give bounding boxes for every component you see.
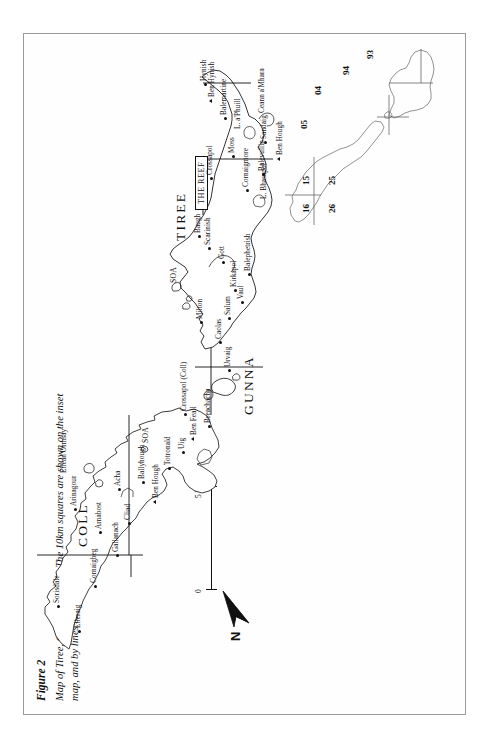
inset-grid-number: 94 <box>341 66 351 75</box>
place-label: Gott <box>219 246 226 259</box>
region-label-tiree: TIREE <box>173 192 189 241</box>
place-label: Ben Feall <box>191 406 198 435</box>
inset-grid-number: 93 <box>365 50 375 59</box>
inset-coastline-tiree <box>389 50 434 118</box>
place-label: Baugh <box>195 214 202 233</box>
place-label: Gallanach <box>113 522 120 552</box>
inset-grid-number: 25 <box>327 176 337 185</box>
place-label: Ben Hynish <box>209 62 216 97</box>
coastline-gunna-islet <box>232 374 240 380</box>
place-label: Arnabost <box>96 502 103 529</box>
place-label: Hynish <box>201 60 208 81</box>
place-label: Arinagour <box>71 476 78 506</box>
figure-stage: Figure 2 Map of Tiree, Gunna and Coll. T… <box>23 33 466 715</box>
region-label-coll: COLL <box>75 503 91 547</box>
place-label: Milton <box>197 299 204 319</box>
region-label-gunna: GUNNA <box>241 355 257 415</box>
place-label: Ceann a'Mhara <box>259 68 266 113</box>
place-label: Cliad <box>125 504 132 520</box>
place-label: Breachacha <box>205 388 212 423</box>
place-label: Totronald <box>165 436 172 465</box>
place-label: Moss <box>229 137 236 153</box>
inset-map: 1626152505049493 <box>281 45 446 235</box>
place-label: Balephetrish <box>245 233 252 271</box>
coastline-coll <box>45 408 219 649</box>
place-label: Crossapol (Coll) <box>181 362 188 411</box>
islet-tiree-north <box>182 303 190 309</box>
place-label: Cornaigmore <box>243 148 250 187</box>
coastline-gunna <box>212 378 236 395</box>
inset-grid-number: 26 <box>327 204 337 213</box>
soa-label-tiree: SOA <box>169 267 178 283</box>
soa-label-coll: SOA <box>141 427 150 443</box>
place-label: Scarinish <box>205 217 212 245</box>
place-label: Crossapol <box>207 145 214 175</box>
place-label: Balevullin <box>259 140 266 171</box>
place-label: Sandaig <box>261 115 268 139</box>
place-marker-summit <box>277 157 280 161</box>
inset-grid-number: 05 <box>299 120 309 129</box>
place-label: Urvaig <box>225 346 232 367</box>
islet-soa-tiree <box>172 282 181 291</box>
place-label: Eilean Ormsay <box>61 429 68 473</box>
place-label: Eileraig <box>75 604 82 628</box>
place-label: Acha <box>115 470 122 486</box>
inset-grid-number: 04 <box>313 86 323 95</box>
place-label: Cornaigbeg <box>91 548 98 583</box>
place-marker-summit <box>191 437 194 441</box>
islet-eilean-ormsay <box>84 463 94 473</box>
place-label: Kirkapol <box>231 261 238 287</box>
place-marker-summit <box>153 500 156 504</box>
place-label: L. a'Phuill <box>235 98 242 129</box>
place-label: Ballyhough <box>139 444 146 479</box>
place-label: Balemartine <box>221 79 228 115</box>
place-label: Sorisdale <box>54 575 61 603</box>
place-label: Vaul <box>238 285 245 299</box>
place-label: Salum <box>225 296 232 315</box>
inset-grid-number: 16 <box>301 204 311 213</box>
place-label: Uig <box>179 438 186 449</box>
place-label: Caolas <box>216 319 223 339</box>
place-marker-summit <box>209 99 212 103</box>
place-label: Ben Hough <box>153 464 160 498</box>
inset-grid-number: 15 <box>301 176 311 185</box>
